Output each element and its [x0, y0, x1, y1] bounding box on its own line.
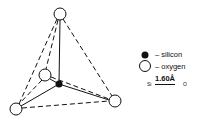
edge-top-bottomleft: [19, 19, 57, 104]
bond-right-label: O: [183, 81, 187, 87]
oxygen-atom-bottom-right: [109, 95, 121, 107]
oxygen-atom-top: [54, 8, 66, 20]
edge-bottomleft-bottomright: [22, 101, 109, 108]
oxygen-atom-bottom-left: [10, 103, 22, 115]
oxygen-atom-front: [39, 69, 51, 81]
edge-front-bottomright: [51, 77, 109, 99]
edge-top-front: [46, 20, 58, 69]
tetrahedron-diagram: [0, 0, 218, 119]
bond-length-label: 1.60Å: [155, 74, 175, 85]
bond-si-bottomright: [59, 84, 109, 100]
bond-left-label: Si: [147, 81, 151, 87]
legend-oxygen-label: – oxygen: [155, 63, 185, 71]
legend-silicon-icon: [142, 52, 149, 59]
legend-oxygen-icon: [140, 61, 151, 72]
bond-si-top: [59, 20, 60, 84]
legend-silicon-label: – silicon: [155, 51, 182, 59]
silicon-atom: [56, 81, 63, 88]
